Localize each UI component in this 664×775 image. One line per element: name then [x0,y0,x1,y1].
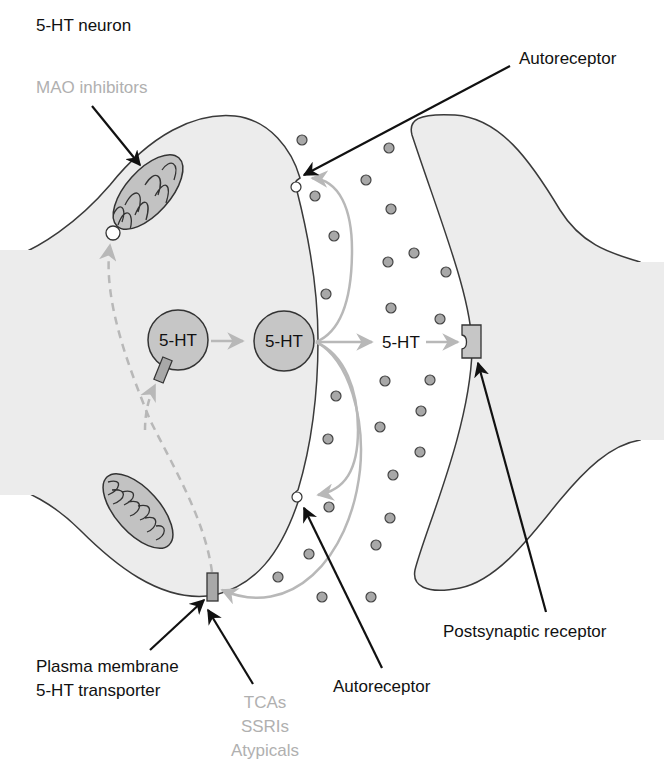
vesicle-loading-label: 5-HT [159,331,197,350]
drug-label-atypicals: Atypicals [231,741,299,760]
postsynaptic-neuron [411,115,640,591]
postsynaptic-receptor [462,325,481,358]
serotonin-synapse-diagram: 5-HT 5-HT 5-HT 5-HT ne [0,0,664,775]
postsynaptic-receptor-label: Postsynaptic receptor [443,622,607,641]
autoreceptor-top-label: Autoreceptor [519,49,617,68]
transporter-pointer [150,600,204,650]
drug-label-ssris: SSRIs [241,717,289,736]
vesicle-docked: 5-HT [254,311,314,371]
autoreceptor-top-site [291,182,301,192]
autoreceptor-feedback-bottom [316,342,358,495]
mao-enzyme [106,226,120,240]
transporter-label-line1: Plasma membrane [36,657,179,676]
transporter-label-line2: 5-HT transporter [36,681,161,700]
diagram-title: 5-HT neuron [36,16,131,35]
vesicle-docked-label: 5-HT [265,332,303,351]
mao-inhibitors-label: MAO inhibitors [36,78,147,97]
autoreceptor-bottom-label: Autoreceptor [333,677,431,696]
autoreceptor-bottom-site [292,492,302,502]
plasma-membrane-transporter [207,573,218,601]
released-5ht-label: 5-HT [382,333,420,352]
drug-label-tcas: TCAs [244,693,287,712]
drug-pointer [208,610,253,684]
mao-pointer-arrow [92,106,140,165]
